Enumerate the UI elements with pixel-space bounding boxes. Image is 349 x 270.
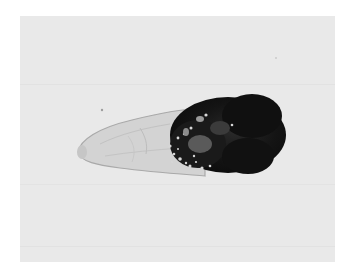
specimen-illustration xyxy=(20,16,335,262)
micrograph-frame xyxy=(20,16,335,262)
